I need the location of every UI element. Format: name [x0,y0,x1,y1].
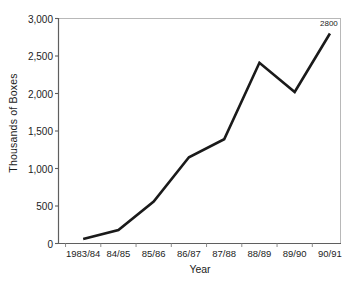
data-point-label: 2800 [320,19,338,28]
x-axis-title-label: Year [189,263,210,275]
data-series-line [83,34,330,240]
plot-axes [58,18,341,244]
x-axis-title: Year [58,263,342,275]
line-chart-figure: Thousands of Boxes 05001,0001,5002,0002,… [0,0,358,285]
plot-area [0,0,358,285]
plot-frame [58,19,341,244]
